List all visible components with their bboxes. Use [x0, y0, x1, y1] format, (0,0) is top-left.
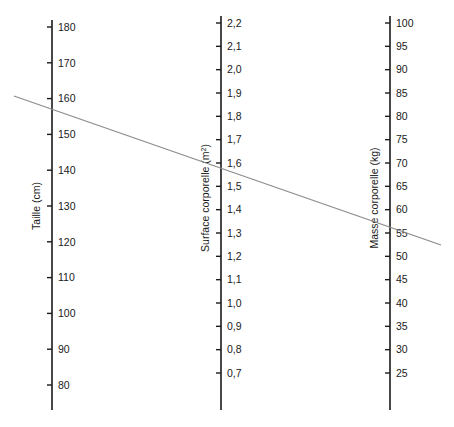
axis-tick-label-surface-corporelle: 2,2	[227, 17, 242, 29]
axis-surface-corporelle: 2,22,12,01,91,81,71,61,51,41,31,21,11,00…	[199, 16, 242, 410]
axis-tick-label-taille: 160	[58, 92, 76, 104]
axis-tick-label-surface-corporelle: 1,2	[227, 250, 242, 262]
axis-tick-label-masse-corporelle: 45	[396, 273, 408, 285]
axis-tick-label-masse-corporelle: 25	[396, 367, 408, 379]
axis-tick-label-surface-corporelle: 1,5	[227, 180, 242, 192]
axis-tick-label-surface-corporelle: 0,9	[227, 320, 242, 332]
axis-title-masse-corporelle: Masse corporelle (kg)	[368, 148, 380, 249]
axis-tick-label-masse-corporelle: 95	[396, 40, 408, 52]
axis-title-surface-corporelle: Surface corporelle (m2)	[199, 144, 211, 252]
axis-tick-label-surface-corporelle: 0,8	[227, 343, 242, 355]
axis-tick-label-surface-corporelle: 1,9	[227, 87, 242, 99]
axis-tick-label-taille: 110	[58, 271, 75, 283]
axis-tick-label-surface-corporelle: 1,7	[227, 133, 242, 145]
axis-tick-label-masse-corporelle: 30	[396, 343, 408, 355]
axis-tick-label-masse-corporelle: 60	[396, 203, 408, 215]
axis-masse-corporelle: 100959085807570656055504540353025Masse c…	[368, 16, 414, 410]
nomogram-chart: 1801701601501401301201101009080Taille (c…	[0, 0, 454, 427]
axis-tick-label-taille: 100	[58, 307, 76, 319]
axis-tick-label-taille: 180	[58, 21, 76, 33]
axis-tick-label-surface-corporelle: 2,1	[227, 40, 242, 52]
axis-tick-label-surface-corporelle: 1,1	[227, 273, 242, 285]
axis-tick-label-surface-corporelle: 1,8	[227, 110, 242, 122]
axis-tick-label-taille: 150	[58, 128, 76, 140]
axis-tick-label-masse-corporelle: 85	[396, 87, 408, 99]
axis-tick-label-surface-corporelle: 1,0	[227, 297, 242, 309]
axis-tick-label-taille: 130	[58, 200, 76, 212]
axis-tick-label-taille: 120	[58, 236, 76, 248]
axis-tick-label-taille: 170	[58, 57, 76, 69]
axis-tick-label-masse-corporelle: 35	[396, 320, 408, 332]
axis-taille: 1801701601501401301201101009080Taille (c…	[30, 20, 76, 410]
axis-tick-label-surface-corporelle: 2,0	[227, 63, 242, 75]
axis-title-taille: Taille (cm)	[30, 182, 42, 230]
axis-tick-label-masse-corporelle: 100	[396, 17, 414, 29]
axis-tick-label-surface-corporelle: 0,7	[227, 367, 242, 379]
axis-tick-label-masse-corporelle: 65	[396, 180, 408, 192]
axis-tick-label-taille: 140	[58, 164, 76, 176]
axis-tick-label-masse-corporelle: 40	[396, 297, 408, 309]
axis-tick-label-surface-corporelle: 1,4	[227, 203, 242, 215]
axis-tick-label-masse-corporelle: 90	[396, 63, 408, 75]
axis-tick-label-surface-corporelle: 1,6	[227, 157, 242, 169]
axis-tick-label-masse-corporelle: 75	[396, 133, 408, 145]
axis-tick-label-masse-corporelle: 50	[396, 250, 408, 262]
axis-tick-label-masse-corporelle: 80	[396, 110, 408, 122]
axis-tick-label-surface-corporelle: 1,3	[227, 227, 242, 239]
nomogram-canvas: 1801701601501401301201101009080Taille (c…	[0, 0, 454, 427]
axis-tick-label-taille: 90	[58, 343, 70, 355]
axis-tick-label-masse-corporelle: 70	[396, 157, 408, 169]
axis-tick-label-taille: 80	[58, 379, 70, 391]
